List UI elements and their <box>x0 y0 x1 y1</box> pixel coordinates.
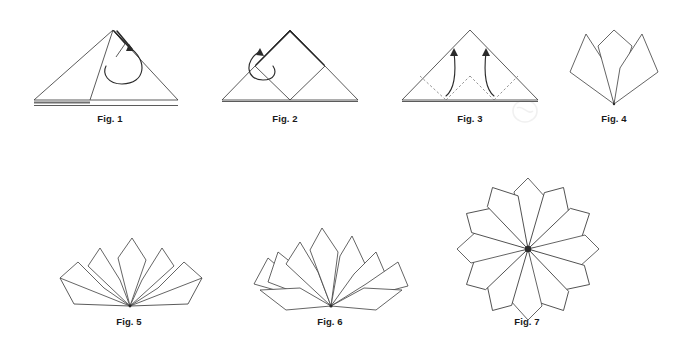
fig1-outer-triangle <box>34 30 178 100</box>
figure-2-diagram <box>215 26 365 112</box>
fig-1-caption: Fig. 1 <box>97 113 122 124</box>
fig2-inner-diamond <box>255 30 325 100</box>
fig3-outer-triangle <box>402 30 538 100</box>
figure-5-diagram <box>58 236 204 312</box>
fig3-dashed-mid-right <box>470 76 494 100</box>
fig-6-caption: Fig. 6 <box>317 316 342 327</box>
fig-5-caption: Fig. 5 <box>116 316 141 327</box>
scan-artifact <box>508 96 542 126</box>
fig-4-caption: Fig. 4 <box>601 113 626 124</box>
fig2-outer-triangle <box>222 30 358 100</box>
fig1-fold-arrow <box>105 48 142 84</box>
fig-2-caption: Fig. 2 <box>272 113 297 124</box>
figure-6-diagram <box>252 222 410 314</box>
figure-4-diagram <box>568 28 664 110</box>
figure-7-diagram <box>455 176 601 322</box>
figure-1-diagram <box>30 26 190 112</box>
fig-7-caption: Fig. 7 <box>514 316 539 327</box>
fig3-dashed-left <box>420 76 446 100</box>
fig5-center-point <box>129 305 132 308</box>
fig1-spine-highlight <box>114 31 129 47</box>
fig2-fold-arrow <box>249 52 275 80</box>
fig4-center-point <box>613 103 615 105</box>
fig7-rosette <box>457 178 599 320</box>
fig3-arrow-left <box>446 52 455 96</box>
fig3-arrow-right <box>485 52 494 96</box>
fig7-center-point <box>525 246 531 252</box>
fig2-spine-left <box>256 31 290 65</box>
fig2-fold-arrowhead <box>256 48 264 56</box>
fig2-spine-right <box>290 31 324 65</box>
fig6-center-point <box>329 304 332 307</box>
fig-3-caption: Fig. 3 <box>457 113 482 124</box>
instruction-sheet: Fig. 1 Fig. 2 <box>0 0 678 340</box>
fig3-dashed-mid-left <box>446 76 470 100</box>
